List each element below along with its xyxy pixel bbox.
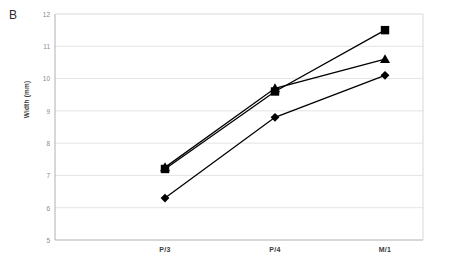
plot-area <box>0 0 451 262</box>
chart-figure: B Width (mm) 12 11 10 9 8 7 6 5 P/3 P/4 … <box>0 0 451 262</box>
data-point-square <box>161 165 169 173</box>
data-point-square <box>381 26 389 34</box>
data-point-square <box>271 87 279 95</box>
plot-background <box>55 14 423 240</box>
